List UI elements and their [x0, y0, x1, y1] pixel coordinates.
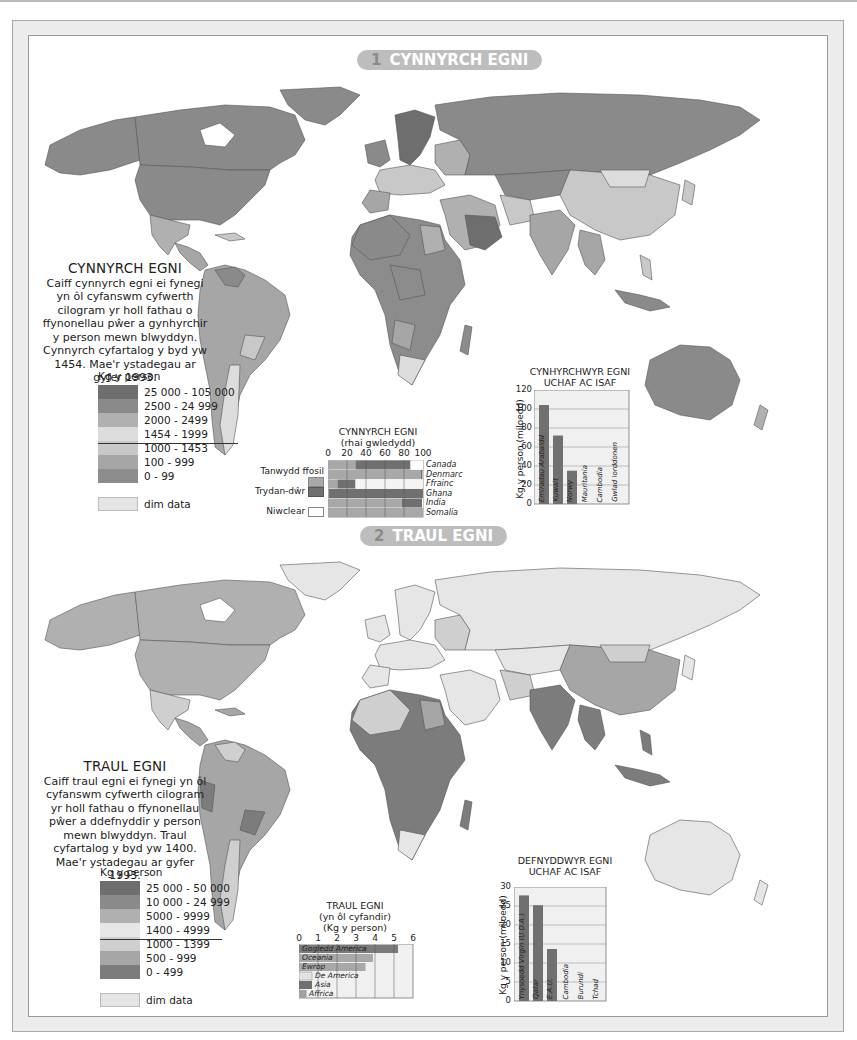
- top-rule: [0, 0, 857, 2]
- section-1-description: CYNNYRCH EGNI Caiff cynnyrch egni ei fyn…: [40, 262, 210, 385]
- legend-label: 25 000 - 105 000: [144, 386, 235, 398]
- chart-legend: Tanwydd ffosil Trydan-dŵr Niwclear: [250, 466, 324, 526]
- section-1-title: CYNNYRCH EGNI: [389, 51, 528, 69]
- legend-label: 500 - 999: [146, 952, 197, 964]
- y-axis-category-labels: Canada Denmarc Ffrainc Ghana India Somal…: [426, 460, 463, 517]
- world-average-divider: [100, 939, 222, 940]
- legend-item: 0 - 99: [98, 469, 248, 483]
- legend-label: 1454 - 1999: [144, 428, 208, 440]
- legend-swatch: [98, 455, 138, 469]
- legend-swatch: [98, 385, 138, 399]
- legend-no-data: dim data: [100, 993, 250, 1007]
- legend-item: 25 000 - 105 000: [98, 385, 248, 399]
- legend-swatch: [98, 413, 138, 427]
- legend-label: dim data: [146, 994, 193, 1006]
- legend-item: 2500 - 24 999: [98, 399, 248, 413]
- stacked-bars: [328, 460, 428, 518]
- legend-item: 25 000 - 50 000: [100, 881, 250, 895]
- legend-label: 10 000 - 24 999: [146, 896, 230, 908]
- chart-title: CYNHYRCHWYR EGNI UCHAF AC ISAF: [520, 366, 640, 388]
- chart-title: CYNNYRCH EGNI (rhai gwledydd): [328, 426, 428, 448]
- chart-title: TRAUL EGNI (yn ôl cyfandir) (Kg y person…: [290, 900, 420, 933]
- legend-no-data: dim data: [98, 497, 248, 511]
- top-bottom-producers-chart: CYNHYRCHWYR EGNI UCHAF AC ISAF Kg y pers…: [500, 366, 640, 516]
- legend-swatch: [100, 909, 140, 923]
- section-1-description-heading: CYNNYRCH EGNI: [40, 262, 210, 276]
- section-2-title: TRAUL EGNI: [392, 527, 493, 545]
- legend-swatch: [98, 399, 138, 413]
- legend-swatch: [100, 965, 140, 979]
- legend-swatch: [100, 993, 140, 1007]
- section-1-number: 1: [371, 51, 381, 69]
- legend-label: 5000 - 9999: [146, 910, 210, 922]
- x-axis-category-labels: Emiradau Arabaidd Kuwait Norwy Mauritani…: [534, 390, 630, 504]
- y-axis-ticks: 30 25 20 15 10 5 0: [497, 881, 511, 1005]
- section-2-title-badge: 2TRAUL EGNI: [360, 526, 507, 546]
- legend-label: dim data: [144, 498, 191, 510]
- legend-label: 2500 - 24 999: [144, 400, 218, 412]
- bar-category-labels: Gogledd America Oceania Ewrop De America…: [299, 944, 367, 998]
- legend-item: 1454 - 1999: [98, 427, 248, 441]
- x-axis-ticks: 0 1 2 3 4 5 6: [299, 933, 419, 943]
- chart-title: DEFNYDDWYR EGNI UCHAF AC ISAF: [505, 855, 625, 877]
- section-2-description-heading: TRAUL EGNI: [40, 760, 210, 774]
- consumption-by-continent-chart: TRAUL EGNI (yn ôl cyfandir) (Kg y person…: [290, 900, 450, 1000]
- legend-swatch: [100, 951, 140, 965]
- legend-title: Kg y person: [100, 866, 250, 878]
- legend-item: 500 - 999: [100, 951, 250, 965]
- legend-swatch: [98, 469, 138, 483]
- legend-swatch: [98, 497, 138, 511]
- section-1-description-body: Caiff cynnyrch egni ei fynegi yn ôl cyfa…: [40, 277, 210, 385]
- energy-production-mix-chart: CYNNYRCH EGNI (rhai gwledydd) 0 20 40 60…: [250, 426, 450, 522]
- section-1-title-badge: 1CYNNYRCH EGNI: [357, 50, 542, 70]
- legend-label: 25 000 - 50 000: [146, 882, 230, 894]
- x-axis-category-labels: Ynysoedd Virgin (U.D.A.) Qatar E.A.U. Ca…: [514, 887, 608, 1001]
- legend-label: 0 - 99: [144, 470, 175, 482]
- legend-label: 100 - 999: [144, 456, 195, 468]
- legend-item: 0 - 499: [100, 965, 250, 979]
- section-2-legend: Kg y person 25 000 - 50 000 10 000 - 24 …: [100, 866, 250, 1007]
- y-axis-ticks: 120 100 80 60 40 20 0: [514, 384, 532, 508]
- legend-item: 100 - 999: [98, 455, 248, 469]
- section-2-number: 2: [374, 527, 384, 545]
- legend-swatch: [98, 427, 138, 441]
- legend-title: Kg y person: [98, 370, 248, 382]
- legend-item: 1400 - 4999: [100, 923, 250, 937]
- world-average-divider: [98, 443, 238, 444]
- legend-label: 1400 - 4999: [146, 924, 210, 936]
- legend-label: 2000 - 2499: [144, 414, 208, 426]
- legend-swatch: [100, 923, 140, 937]
- section-2-description: TRAUL EGNI Caiff traul egni ei fynegi yn…: [40, 760, 210, 883]
- legend-label: 0 - 499: [146, 966, 183, 978]
- legend-item: 2000 - 2499: [98, 413, 248, 427]
- legend-swatch: [100, 881, 140, 895]
- legend-item: 10 000 - 24 999: [100, 895, 250, 909]
- top-bottom-consumers-chart: DEFNYDDWYR EGNI UCHAF AC ISAF Kg y perso…: [485, 855, 625, 1010]
- x-axis-ticks: 0 20 40 60 80 100: [328, 448, 428, 458]
- legend-item: 5000 - 9999: [100, 909, 250, 923]
- legend-swatch: [100, 895, 140, 909]
- section-1-legend: Kg y person 25 000 - 105 000 2500 - 24 9…: [98, 370, 248, 511]
